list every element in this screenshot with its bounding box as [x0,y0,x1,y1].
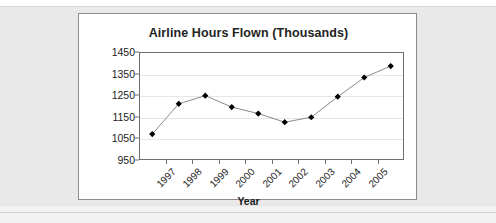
chart-card: Airline Hours Flown (Thousands) 95010501… [78,13,417,200]
y-axis-tick-label: 1350 [95,68,135,80]
x-axis-tick-mark [298,160,299,164]
y-axis-tick-label: 950 [95,154,135,166]
series-polyline [152,66,391,134]
x-axis-tick-mark [325,160,326,164]
x-axis-tick-mark [272,160,273,164]
data-point-marker [229,104,235,110]
x-axis-tick-mark [166,160,167,164]
x-axis-tick-label: 1998 [175,166,204,195]
data-point-marker [255,110,261,116]
x-axis-tick-mark [351,160,352,164]
y-axis-tick-label: 1250 [95,89,135,101]
x-axis-tick-label: 2004 [334,166,363,195]
y-axis-tick-label: 1150 [95,111,135,123]
page-top-strip [0,0,496,7]
x-axis-tick-mark [378,160,379,164]
data-series-line [139,52,404,160]
y-axis-tick-label: 1050 [95,132,135,144]
page-root: Airline Hours Flown (Thousands) 95010501… [0,0,496,223]
plot-wrapper: 95010501150125013501450 1997199819992000… [79,14,418,201]
x-axis-tick-label: 2002 [281,166,310,195]
data-point-marker [202,93,208,99]
data-point-marker [282,119,288,125]
x-axis-tick-mark [219,160,220,164]
x-axis-tick-label: 1997 [148,166,177,195]
y-axis-tick-label: 1450 [95,46,135,58]
x-axis-tick-mark [192,160,193,164]
x-axis-tick-label: 2003 [307,166,336,195]
x-axis-tick-label: 2005 [360,166,389,195]
x-axis-tick-mark [245,160,246,164]
data-point-marker [388,63,394,69]
x-axis-tick-label: 2001 [254,166,283,195]
page-bottom-rule [0,212,496,213]
page-bottom-strip [0,205,496,223]
x-axis-tick-label: 1999 [201,166,230,195]
x-axis-tick-label: 2000 [228,166,257,195]
